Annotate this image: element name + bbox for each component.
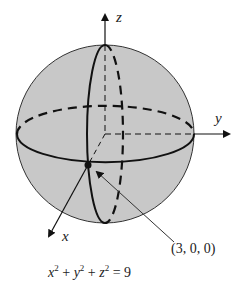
point-label: (3, 0, 0): [171, 241, 215, 257]
y-axis-label: y: [215, 110, 222, 127]
point-marker: [85, 162, 92, 169]
equation: x2 + y2 + z2 = 9: [48, 263, 131, 281]
x-axis-label: x: [62, 228, 69, 245]
z-axis-label: z: [116, 9, 122, 26]
